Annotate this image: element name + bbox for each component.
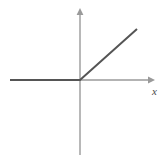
x-axis-arrow-icon	[148, 77, 155, 84]
piecewise-function-figure: x	[0, 0, 166, 163]
x-axis-label: x	[151, 85, 157, 97]
function-curve	[10, 29, 137, 80]
y-axis-arrow-icon	[77, 8, 84, 15]
graph-canvas: x	[0, 0, 166, 163]
